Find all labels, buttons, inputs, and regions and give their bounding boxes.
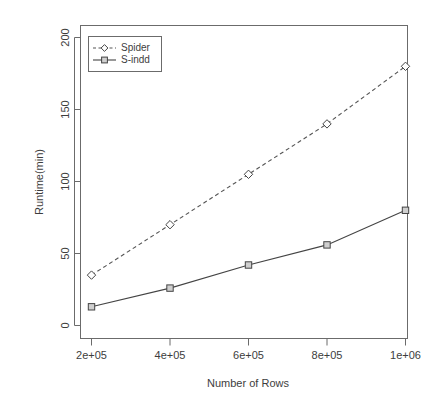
legend-label-sindd: S-indd bbox=[121, 54, 150, 65]
datapoint-diamond-marker bbox=[166, 221, 174, 229]
x-tick-label-1e06: 1e+06 bbox=[390, 349, 421, 361]
chart-container: 200 150 100 50 0 Runtime(min) 2e+05 4e+0… bbox=[0, 0, 441, 411]
y-tick-label-100: 100 bbox=[59, 172, 71, 190]
plot-frame bbox=[81, 26, 408, 339]
x-tick-label-4e05: 4e+05 bbox=[155, 349, 186, 361]
x-tick-label-2e05: 2e+05 bbox=[76, 349, 107, 361]
runtime-line-chart: 200 150 100 50 0 Runtime(min) 2e+05 4e+0… bbox=[0, 0, 441, 411]
datapoint-diamond-marker bbox=[323, 120, 331, 128]
legend-label-spider: Spider bbox=[121, 42, 151, 53]
datapoint-diamond-marker bbox=[244, 170, 252, 178]
series-s-indd bbox=[88, 207, 408, 310]
datapoint-square-marker bbox=[245, 262, 251, 268]
line-s-indd bbox=[92, 210, 406, 306]
y-axis-title: Runtime(min) bbox=[33, 149, 45, 215]
y-axis bbox=[75, 38, 81, 326]
chart-legend: Spider S-indd bbox=[89, 37, 162, 72]
series-layer bbox=[87, 62, 409, 310]
datapoint-square-marker bbox=[324, 242, 330, 248]
series-spider bbox=[87, 62, 409, 279]
datapoint-square-marker bbox=[402, 207, 408, 213]
x-axis bbox=[92, 339, 406, 346]
datapoint-square-marker bbox=[88, 304, 94, 310]
y-tick-label-0: 0 bbox=[59, 322, 71, 328]
x-tick-label-6e05: 6e+05 bbox=[233, 349, 264, 361]
datapoint-diamond-marker bbox=[87, 271, 95, 279]
datapoint-diamond-marker bbox=[401, 62, 409, 70]
legend-marker-square-icon bbox=[102, 57, 108, 63]
y-tick-label-50: 50 bbox=[59, 247, 71, 259]
x-tick-label-8e05: 8e+05 bbox=[312, 349, 343, 361]
y-tick-label-150: 150 bbox=[59, 100, 71, 118]
datapoint-square-marker bbox=[167, 285, 173, 291]
x-axis-title: Number of Rows bbox=[207, 377, 289, 389]
y-tick-label-200: 200 bbox=[59, 28, 71, 46]
